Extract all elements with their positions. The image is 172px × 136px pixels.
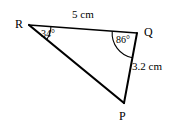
angle-label-q: 86° — [116, 35, 130, 45]
side-length-label-qp: 3.2 cm — [132, 61, 162, 72]
vertex-label-r: R — [15, 18, 23, 30]
vertex-label-p: P — [119, 110, 126, 122]
triangle-figure: R Q P 34° 86° 5 cm 3.2 cm — [0, 0, 172, 136]
vertex-label-q: Q — [144, 26, 153, 38]
side-length-label-rq: 5 cm — [72, 9, 94, 20]
angle-label-r: 34° — [41, 29, 55, 39]
